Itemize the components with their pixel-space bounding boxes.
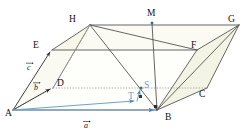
vector-label-a-overarrow-head [89, 121, 91, 123]
parallelepiped-vector-figure: A B C D E F G H M S T a b c [0, 0, 249, 132]
vertex-label-G: G [228, 14, 235, 24]
point-label-M: M [147, 8, 156, 18]
point-label-T: T [128, 91, 134, 101]
marker-S [139, 86, 142, 89]
vertex-label-E: E [33, 40, 39, 50]
vertex-label-F: F [191, 40, 196, 50]
point-label-S: S [144, 80, 149, 90]
marker-M [151, 22, 154, 25]
vertex-label-C: C [199, 89, 205, 99]
vector-label-a: a [84, 121, 88, 130]
vertex-label-D: D [57, 78, 64, 88]
vertex-label-H: H [69, 14, 76, 24]
vector-label-b: b [34, 83, 38, 92]
vertex-label-B: B [165, 112, 171, 122]
vector-label-c-overarrow-head [32, 62, 34, 64]
vector-label-c: c [27, 63, 31, 72]
vector-label-c-group: c [26, 62, 34, 72]
vector-label-a-group: a [83, 121, 91, 130]
marker-B-joint [154, 105, 157, 108]
marker-S-joint [139, 95, 142, 98]
vertex-label-A: A [5, 108, 12, 118]
